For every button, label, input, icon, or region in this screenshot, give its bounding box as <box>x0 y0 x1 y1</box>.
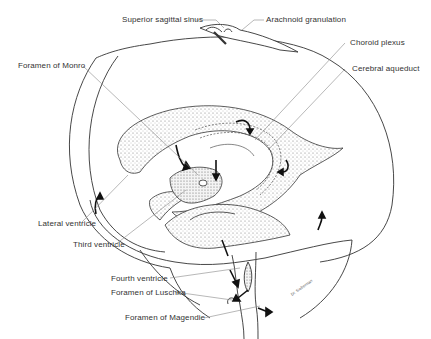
label-lateral-ventricle: Lateral ventricle <box>38 219 96 229</box>
label-arachnoid-granulation: Arachnoid granulation <box>266 15 346 25</box>
third-ventricle-shape <box>170 167 222 203</box>
brain-ventricle-diagram: Dr. Sieberman Superior sagittal sinus Ar… <box>0 0 431 339</box>
label-fourth-ventricle: Fourth ventricle <box>111 274 168 284</box>
artist-signature: Dr. Sieberman <box>290 278 314 297</box>
brainstem-shape <box>228 252 258 339</box>
label-choroid-plexus: Choroid plexus <box>350 38 405 48</box>
label-foramen-of-magendie: Foramen of Magendie <box>125 313 205 323</box>
brain-illustration: Dr. Sieberman <box>0 0 431 339</box>
label-superior-sagittal-sinus: Superior sagittal sinus <box>122 15 203 25</box>
label-foramen-of-monro: Foramen of Monro <box>18 61 85 71</box>
label-cerebral-aqueduct: Cerebral aqueduct <box>352 64 420 74</box>
label-foramen-of-luschka: Foramen of Luschka <box>111 288 186 298</box>
superior-sagittal-sinus-shape <box>200 24 298 52</box>
label-third-ventricle: Third ventricle <box>73 240 125 250</box>
